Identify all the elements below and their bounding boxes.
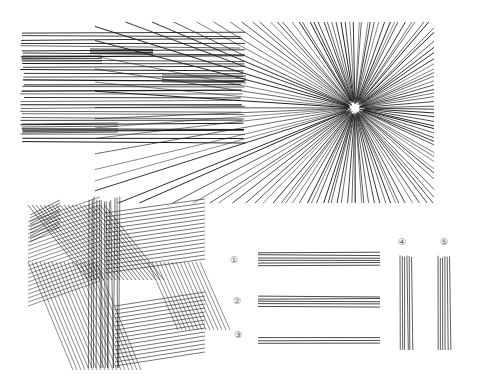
numbered-line-sets bbox=[258, 252, 451, 350]
set-label-4: ④ bbox=[398, 238, 406, 247]
set-label-2: ② bbox=[233, 297, 241, 306]
horizontal-lines-panel bbox=[20, 32, 246, 143]
set-label-3: ③ bbox=[234, 331, 242, 340]
set-label-1: ① bbox=[230, 256, 238, 265]
set-label-5: ⑤ bbox=[440, 238, 448, 247]
crosshatch-lines-panel bbox=[28, 196, 230, 370]
